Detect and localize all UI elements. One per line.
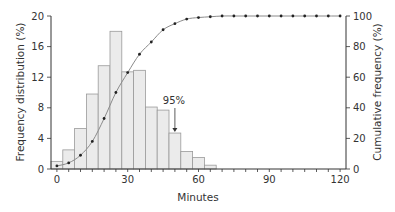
histogram-bar: [169, 133, 181, 169]
cumulative-point: [209, 15, 212, 18]
cumulative-point: [327, 15, 330, 18]
cumulative-point: [268, 15, 271, 18]
cumulative-point: [174, 22, 177, 25]
cumulative-point: [126, 71, 129, 74]
x-axis-title: Minutes: [177, 191, 218, 203]
chart: 0306090120048121620020406080100 95% Minu…: [0, 0, 395, 212]
histogram-bar: [145, 107, 157, 169]
y2-tick-label: 100: [353, 11, 372, 22]
histogram-bar: [193, 158, 205, 169]
histogram-bar: [86, 94, 98, 169]
histogram-bar: [63, 150, 75, 169]
y2-tick-label: 60: [353, 72, 366, 83]
cumulative-point: [79, 154, 82, 157]
cumulative-point: [115, 91, 118, 94]
frequency-bars: [51, 31, 216, 169]
cumulative-point: [292, 15, 295, 18]
cumulative-point: [221, 15, 224, 18]
histogram-bar: [204, 165, 216, 169]
x-tick-label: 120: [331, 174, 350, 185]
cumulative-point: [197, 16, 200, 19]
cumulative-point: [315, 15, 318, 18]
cumulative-point: [256, 15, 259, 18]
y2-tick-label: 20: [353, 133, 366, 144]
cumulative-point: [138, 53, 141, 56]
cumulative-point: [56, 165, 59, 168]
y-tick-label: 20: [31, 11, 44, 22]
y-tick-label: 4: [38, 133, 44, 144]
y2-tick-label: 0: [353, 164, 359, 175]
cumulative-point: [233, 15, 236, 18]
cumulative-point: [103, 117, 106, 120]
y-tick-label: 12: [31, 72, 44, 83]
histogram-bar: [122, 72, 134, 169]
arrow-down-icon: [172, 128, 177, 132]
cumulative-point: [244, 15, 247, 18]
y-tick-label: 8: [38, 102, 44, 113]
annotation-label: 95%: [163, 95, 185, 106]
y-tick-label: 0: [38, 164, 44, 175]
cumulative-point: [185, 18, 188, 21]
histogram-bar: [157, 110, 169, 169]
cumulative-point: [339, 15, 342, 18]
cumulative-point: [67, 161, 70, 164]
x-tick-label: 90: [263, 174, 276, 185]
x-tick-label: 0: [54, 174, 60, 185]
cumulative-point: [91, 140, 94, 143]
x-tick-label: 60: [192, 174, 205, 185]
y-tick-label: 16: [31, 41, 44, 52]
cumulative-point: [162, 28, 165, 31]
cumulative-point: [280, 15, 283, 18]
y2-tick-label: 40: [353, 102, 366, 113]
histogram-bar: [181, 151, 193, 169]
y2-axis-title: Cumulative frequency (%): [371, 23, 383, 160]
histogram-bar: [134, 70, 146, 169]
cumulative-point: [150, 41, 153, 44]
y2-tick-label: 80: [353, 41, 366, 52]
cumulative-point: [303, 15, 306, 18]
x-tick-label: 30: [121, 174, 134, 185]
y-axis-title: Frequency distribution (%): [14, 23, 26, 162]
histogram-bar: [75, 128, 87, 169]
